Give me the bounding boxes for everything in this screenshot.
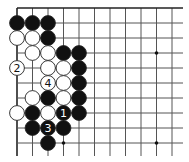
black-stone-icon [72,106,87,121]
black-stone-icon [56,121,71,136]
white-stone-move-4: 4 [41,76,56,91]
white-stone [25,91,40,106]
white-stone-move-2: 2 [10,61,25,76]
white-stone-icon [41,106,56,121]
black-stone [72,106,87,121]
black-stone-move-3: 3 [41,121,56,136]
star-point-icon [155,51,159,55]
black-stone [56,46,71,61]
black-stone-icon [25,121,40,136]
black-stone [72,91,87,106]
black-stone-icon [41,31,56,46]
white-stone [56,61,71,76]
white-stone-icon [56,91,71,106]
black-stone [10,16,25,31]
black-stone-icon [72,76,87,91]
black-stone-icon [25,16,40,31]
black-stone [72,46,87,61]
white-stone [41,61,56,76]
white-stone-icon [25,46,40,61]
black-stone-icon [56,46,71,61]
black-stone-icon [41,91,56,106]
white-stone-icon [25,91,40,106]
black-stone [72,76,87,91]
black-stone [56,121,71,136]
go-board: 2413 [0,0,189,162]
white-stone [41,106,56,121]
black-stone [72,61,87,76]
black-stone-icon [72,91,87,106]
black-stone-move-1: 1 [56,106,71,121]
white-stone [25,31,40,46]
move-number-label: 4 [45,77,52,90]
white-stone [56,91,71,106]
black-stone-icon [25,106,40,121]
black-stone [41,16,56,31]
black-stone [41,31,56,46]
white-stone-icon [41,61,56,76]
white-stone-icon [41,46,56,61]
star-point-icon [62,141,66,145]
black-stone [41,91,56,106]
white-stone [56,76,71,91]
black-stone [25,121,40,136]
white-stone-icon [25,31,40,46]
white-stone-icon [10,31,25,46]
black-stone-icon [41,136,56,151]
move-number-label: 3 [45,122,52,135]
white-stone [10,106,25,121]
white-stone-icon [56,61,71,76]
white-stone [25,46,40,61]
black-stone-icon [72,46,87,61]
black-stone-icon [41,16,56,31]
move-number-label: 2 [14,62,21,75]
black-stone-icon [72,61,87,76]
white-stone [41,46,56,61]
move-number-label: 1 [60,107,67,120]
black-stone [41,136,56,151]
black-stone [25,106,40,121]
black-stone [25,16,40,31]
star-point-icon [155,141,159,145]
white-stone [10,31,25,46]
black-stone-icon [10,16,25,31]
white-stone-icon [10,106,25,121]
white-stone-icon [56,76,71,91]
